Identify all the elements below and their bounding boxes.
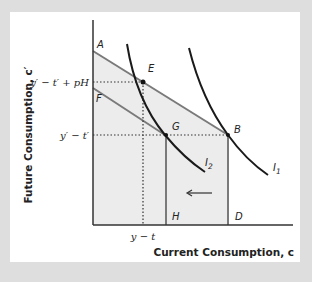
label-G: G [172, 121, 180, 132]
point-G-dot [164, 133, 168, 137]
label-F: F [96, 93, 102, 104]
y-tick-lower: y′ − t′ [59, 130, 90, 141]
label-D: D [235, 211, 243, 222]
x-axis-label: Current Consumption, c [153, 246, 294, 258]
label-B: B [234, 124, 241, 135]
budget-constraint-diagram: A E F G B H D I2 I1 y′ − t′ + pH y′ − t′… [0, 0, 312, 282]
label-H: H [172, 211, 180, 222]
y-axis-label: Future Consumption, c′ [22, 66, 34, 203]
x-tick-label: y − t [130, 231, 156, 242]
label-A: A [96, 39, 104, 50]
shaded-region [93, 51, 228, 225]
point-B-dot [226, 133, 230, 137]
label-E: E [148, 63, 155, 74]
point-E-dot [141, 80, 146, 85]
y-tick-upper: y′ − t′ + pH [29, 77, 89, 88]
label-I1: I1 [273, 162, 281, 176]
